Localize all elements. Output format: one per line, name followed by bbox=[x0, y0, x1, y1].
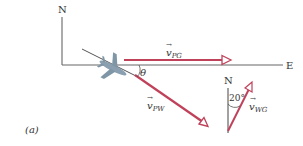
v-pw-arrow bbox=[135, 75, 208, 127]
wind-north-label: N bbox=[224, 75, 233, 86]
v-pg-vector-mark: → bbox=[166, 41, 172, 49]
relative-velocity-diagram: N E vPG → vPW → θ N 20° vWG → (a) bbox=[0, 0, 303, 146]
wind-angle-label: 20° bbox=[229, 93, 245, 103]
wind-angle-arc bbox=[228, 104, 240, 107]
airplane-icon bbox=[93, 49, 132, 88]
east-label: E bbox=[286, 60, 293, 71]
north-label: N bbox=[58, 4, 67, 15]
theta-label: θ bbox=[140, 67, 146, 78]
panel-label: (a) bbox=[25, 124, 39, 135]
v-wg-vector-mark: → bbox=[250, 95, 256, 103]
v-pw-vector-mark: → bbox=[147, 94, 153, 102]
